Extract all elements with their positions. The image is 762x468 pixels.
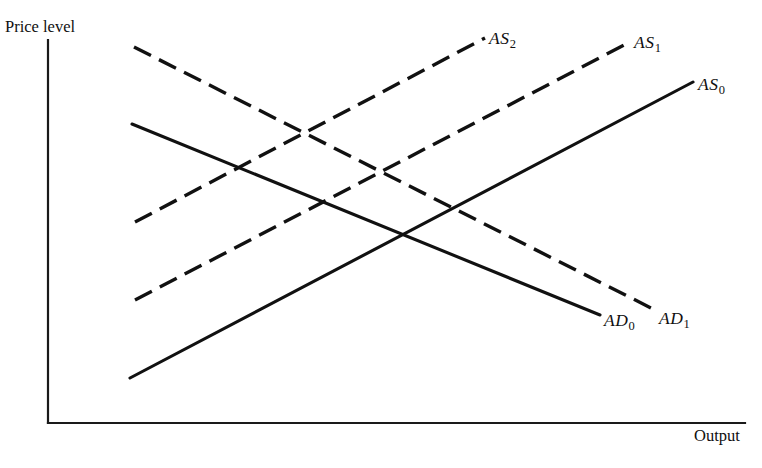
curve-as0 <box>130 82 693 378</box>
curve-label-ad0: AD0 <box>604 310 635 334</box>
curve-label-as2-subscript: 2 <box>510 37 516 51</box>
curve-label-ad0-text: AD <box>604 310 629 330</box>
plot-canvas <box>0 0 762 468</box>
curve-label-ad1-text: AD <box>659 308 684 328</box>
as-ad-diagram: Price level Output AS0 AS1 AS2 AD0 AD1 <box>0 0 762 468</box>
x-axis-label: Output <box>694 426 740 446</box>
curve-label-as1: AS1 <box>634 32 661 56</box>
curve-label-ad1: AD1 <box>659 308 690 332</box>
curve-label-as2-text: AS <box>489 28 510 48</box>
curve-label-as1-subscript: 1 <box>655 41 661 55</box>
curve-label-ad1-subscript: 1 <box>684 317 690 331</box>
curve-label-as2: AS2 <box>489 28 516 52</box>
curve-label-as0-subscript: 0 <box>719 83 725 97</box>
curve-label-as0-text: AS <box>698 74 719 94</box>
curve-as2 <box>135 38 485 222</box>
curve-as1 <box>135 42 630 300</box>
y-axis-label: Price level <box>5 17 75 37</box>
curve-label-as0: AS0 <box>698 74 725 98</box>
curve-label-as1-text: AS <box>634 32 655 52</box>
curve-ad0 <box>132 124 600 315</box>
curve-label-ad0-subscript: 0 <box>629 319 635 333</box>
